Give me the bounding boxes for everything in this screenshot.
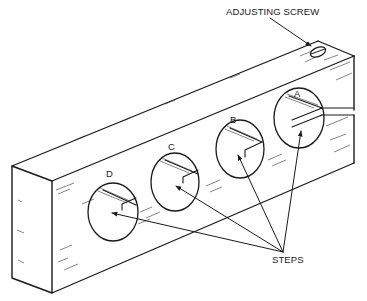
adjusting-screw-label: ADJUSTING SCREW bbox=[226, 6, 319, 17]
hole-label-a: A bbox=[294, 88, 301, 99]
hole-label-b: B bbox=[230, 114, 236, 125]
steps-callout: STEPS bbox=[112, 131, 304, 265]
hole-label-d: D bbox=[106, 168, 113, 179]
adjusting-screw-callout: ADJUSTING SCREW bbox=[226, 6, 319, 46]
wood-grain bbox=[17, 51, 352, 270]
hole-b: B bbox=[216, 114, 264, 178]
steps-label: STEPS bbox=[272, 254, 304, 265]
hole-label-c: C bbox=[168, 141, 175, 152]
hole-c: C bbox=[151, 141, 199, 211]
hole-d: D bbox=[88, 168, 138, 241]
adjusting-screw bbox=[309, 45, 327, 59]
stepped-block-diagram: D C B A ADJUST bbox=[0, 0, 367, 301]
hole-a: A bbox=[274, 88, 324, 148]
diagram-canvas: D C B A ADJUST bbox=[0, 0, 367, 301]
